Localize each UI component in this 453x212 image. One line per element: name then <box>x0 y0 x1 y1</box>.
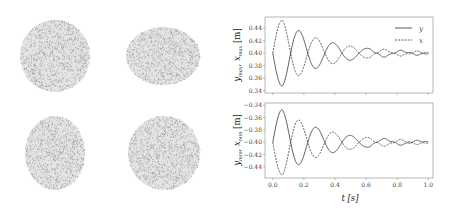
particle-cloud-top-right <box>126 27 200 85</box>
legend: y x <box>395 25 424 45</box>
y-tick-label: −0.38 <box>244 126 263 133</box>
series-x <box>273 120 429 175</box>
y-tick-label: −0.40 <box>244 138 263 145</box>
y-axis-label-min: ymin, xmin [m] <box>232 114 243 167</box>
x-axis-label: t [s] <box>341 193 359 203</box>
figure: 0.340.360.380.400.420.44 y x ymax, xmax … <box>0 0 453 212</box>
x-tick-label: 1.0 <box>424 181 434 188</box>
y-tick-label: −0.42 <box>244 151 263 158</box>
curves <box>273 20 429 86</box>
y-tick-label: −0.34 <box>244 101 263 108</box>
y-tick-label: 0.42 <box>249 37 263 44</box>
particle-cloud-top-left <box>20 20 90 92</box>
y-axis-ticks: −0.34−0.36−0.38−0.40−0.42−0.44 <box>244 101 265 169</box>
y-tick-label: 0.38 <box>249 62 263 69</box>
particle-cloud-bottom-right <box>128 116 201 190</box>
y-tick-label: 0.34 <box>249 87 263 94</box>
curves <box>273 110 429 175</box>
x-axis-ticks <box>273 93 429 95</box>
x-tick-label: 0.6 <box>361 181 371 188</box>
y-axis-ticks: 0.340.360.380.400.420.44 <box>249 24 265 93</box>
x-tick-label: 0.4 <box>330 181 340 188</box>
y-tick-label: −0.36 <box>244 114 263 121</box>
x-tick-label: 0.0 <box>268 181 278 188</box>
y-tick-label: 0.44 <box>249 24 263 31</box>
y-tick-label: 0.40 <box>249 49 263 56</box>
legend-label-x: x <box>419 37 423 45</box>
chart-max-extent: 0.340.360.380.400.420.44 y x ymax, xmax … <box>232 17 433 95</box>
legend-label-y: y <box>418 25 424 33</box>
series-y <box>273 31 429 87</box>
y-tick-label: 0.36 <box>249 74 263 81</box>
series-y <box>273 110 429 165</box>
x-tick-label: 0.2 <box>299 181 309 188</box>
x-axis-ticks: 0.00.20.40.60.81.0 <box>268 178 433 188</box>
y-tick-label: −0.44 <box>244 163 263 170</box>
x-tick-label: 0.8 <box>392 181 402 188</box>
series-x <box>273 20 429 76</box>
particle-snapshots <box>20 20 201 190</box>
y-axis-label-max: ymax, xmax [m] <box>232 28 243 83</box>
particle-cloud-bottom-left <box>25 116 85 190</box>
chart-min-extent: −0.34−0.36−0.38−0.40−0.42−0.44 0.00.20.4… <box>232 101 433 188</box>
